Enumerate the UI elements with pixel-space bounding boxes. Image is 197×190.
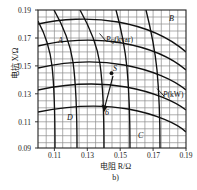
ytick-label-4: 0.11 bbox=[5, 118, 31, 127]
p-label-unit: (kW) bbox=[168, 90, 184, 99]
q-label-unit: (kvar) bbox=[115, 35, 133, 44]
ytick-label-5: 0.09 bbox=[5, 144, 31, 153]
point-label-c: C bbox=[138, 131, 143, 140]
active-power-curve-label: P(kW) bbox=[163, 90, 183, 99]
point-label-a: A bbox=[58, 36, 63, 45]
xtick-label-2: 0.15 bbox=[108, 151, 134, 160]
point-label-s: S bbox=[113, 64, 117, 73]
reactive-power-curve-label: PQ(kvar) bbox=[106, 35, 133, 44]
point-label-6: 6 bbox=[105, 108, 109, 117]
xtick-label-3: 0.17 bbox=[141, 151, 167, 160]
xtick-label-1: 0.13 bbox=[75, 151, 101, 160]
ytick-label-0: 0.19 bbox=[5, 6, 31, 15]
figure-caption: b) bbox=[38, 173, 193, 182]
xtick-label-0: 0.11 bbox=[42, 151, 68, 160]
point-label-d: D bbox=[67, 113, 73, 122]
point-label-b: B bbox=[169, 14, 174, 23]
figure-container: 0.19 0.17 0.15 0.13 0.11 0.09 0.11 0.13 … bbox=[0, 0, 197, 190]
xtick-label-4: 0.19 bbox=[173, 151, 197, 160]
x-axis-label: 电阻 R/Ω bbox=[38, 160, 193, 171]
y-axis-label: 电抗 X/Ω bbox=[9, 34, 20, 94]
